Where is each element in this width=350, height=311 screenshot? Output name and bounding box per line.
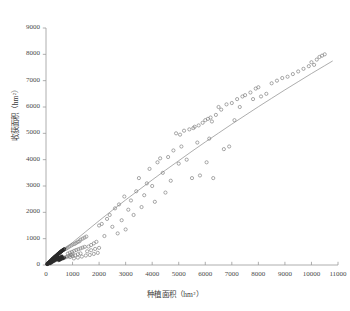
data-point [281, 76, 284, 79]
data-point [129, 199, 132, 202]
data-point [249, 91, 252, 94]
data-point [275, 79, 278, 82]
data-point [153, 200, 156, 203]
data-point [164, 191, 167, 194]
data-point [167, 155, 170, 158]
data-point [180, 145, 183, 148]
data-point [97, 246, 100, 249]
data-point [90, 249, 93, 252]
data-point [205, 161, 208, 164]
data-point [297, 70, 300, 73]
x-tick-label: 11000 [322, 270, 350, 278]
data-point [190, 177, 193, 180]
data-point [182, 129, 185, 132]
data-point [233, 119, 236, 122]
y-tick-label: 9000 [4, 23, 40, 31]
y-tick-label: 4000 [4, 155, 40, 163]
data-point [197, 124, 200, 127]
y-tick-label: 8000 [4, 49, 40, 57]
regression-curve [46, 61, 333, 265]
data-point [111, 225, 114, 228]
data-point [159, 157, 162, 160]
data-point [209, 116, 212, 119]
data-points-group [46, 53, 327, 266]
y-tick-label: 5000 [4, 128, 40, 136]
data-point [257, 86, 260, 89]
data-point [127, 208, 130, 211]
y-tick-label: 6000 [4, 102, 40, 110]
data-point [259, 95, 262, 98]
data-point [302, 67, 305, 70]
data-point [291, 72, 294, 75]
data-point [270, 82, 273, 85]
data-point [169, 179, 172, 182]
axes-group [46, 28, 338, 265]
data-point [323, 53, 326, 56]
data-point [132, 213, 135, 216]
data-point [124, 228, 127, 231]
data-point [286, 75, 289, 78]
data-point [92, 252, 95, 255]
x-axis-label: 种植面积（hm²） [0, 288, 350, 299]
data-point [251, 98, 254, 101]
data-point [174, 132, 177, 135]
data-point [315, 58, 318, 61]
scatter-plot-canvas [0, 0, 350, 311]
data-point [178, 133, 181, 136]
data-point [307, 65, 310, 68]
data-point [103, 234, 106, 237]
data-point [140, 205, 143, 208]
data-point [210, 120, 213, 123]
chart-figure: 收获面积（hm²） 种植面积（hm²） 01000200030004000500… [0, 0, 350, 311]
data-point [120, 219, 123, 222]
data-point [265, 92, 268, 95]
data-point [137, 177, 140, 180]
data-point [172, 149, 175, 152]
data-point [236, 98, 239, 101]
data-point [243, 94, 246, 97]
data-point [225, 103, 228, 106]
data-point [116, 232, 119, 235]
data-point [220, 108, 223, 111]
data-point [94, 247, 97, 250]
data-point [198, 174, 201, 177]
data-point [79, 247, 82, 250]
data-point [96, 251, 99, 254]
y-tick-label: 2000 [4, 207, 40, 215]
data-point [228, 145, 231, 148]
data-point [222, 148, 225, 151]
data-point [123, 195, 126, 198]
data-point [201, 121, 204, 124]
data-point [185, 158, 188, 161]
y-tick-label: 3000 [4, 181, 40, 189]
y-tick-label: 1000 [4, 234, 40, 242]
data-point [84, 254, 87, 257]
data-point [95, 240, 98, 243]
y-tick-label: 0 [4, 260, 40, 268]
data-point [80, 255, 83, 258]
data-point [212, 177, 215, 180]
data-point [188, 128, 191, 131]
data-point [151, 184, 154, 187]
data-point [230, 101, 233, 104]
data-point [105, 217, 108, 220]
data-point [86, 250, 89, 253]
y-tick-label: 7000 [4, 76, 40, 84]
data-point [88, 253, 91, 256]
data-point [310, 61, 313, 64]
data-point [177, 162, 180, 165]
data-point [214, 113, 217, 116]
data-point [196, 141, 199, 144]
data-point [100, 222, 103, 225]
data-point [76, 256, 79, 259]
data-point [148, 167, 151, 170]
data-point [217, 105, 220, 108]
fit-curve [46, 61, 333, 265]
data-point [238, 105, 241, 108]
data-point [156, 161, 159, 164]
x-axis-label-text: 种植面积（hm²） [147, 290, 203, 299]
data-point [143, 194, 146, 197]
data-point [108, 213, 111, 216]
data-point [313, 63, 316, 66]
ticks-group [43, 28, 338, 265]
